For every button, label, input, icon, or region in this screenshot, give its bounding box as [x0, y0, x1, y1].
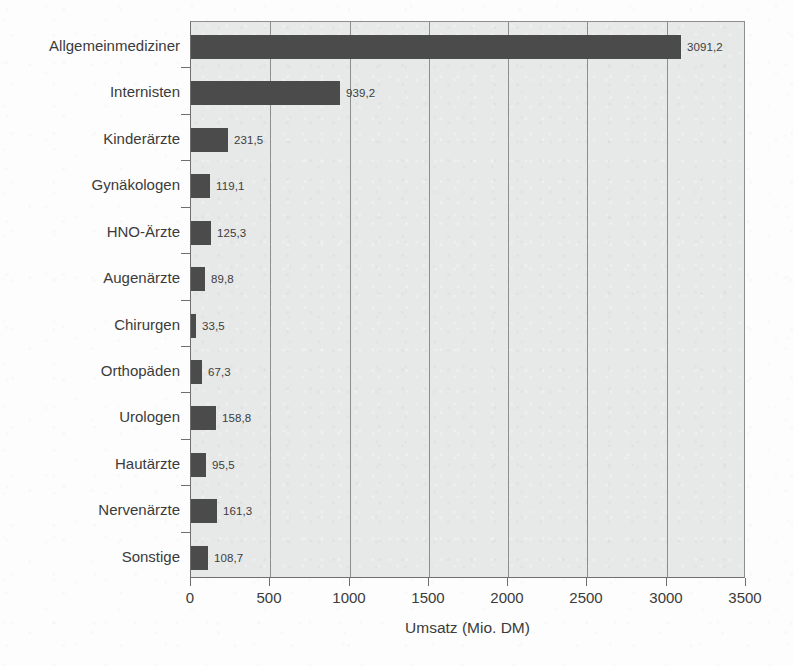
y-axis-tick	[181, 253, 190, 254]
bar-haut-rzte[interactable]	[191, 453, 206, 477]
y-axis-tick	[181, 485, 190, 486]
bar-row: 119,1	[191, 174, 746, 198]
bar-allgemeinmediziner[interactable]	[191, 35, 681, 59]
x-axis-tick-label-2000: 2000	[467, 588, 547, 608]
y-axis-tick	[181, 300, 190, 301]
x-axis-tick-label-500: 500	[229, 588, 309, 608]
bar-row: 231,5	[191, 128, 746, 152]
x-axis-tick-label-3500: 3500	[705, 588, 785, 608]
y-axis-tick	[181, 160, 190, 161]
category-label-kinder-rzte: Kinderärzte	[0, 129, 180, 149]
y-axis-tick	[181, 392, 190, 393]
category-label-orthop-den: Orthopäden	[0, 361, 180, 381]
y-axis-tick	[181, 439, 190, 440]
x-axis-tick-3500	[745, 578, 746, 586]
category-label-nerven-rzte: Nervenärzte	[0, 500, 180, 520]
y-axis-tick	[181, 207, 190, 208]
category-label-hno-rzte: HNO-Ärzte	[0, 222, 180, 242]
bar-value-label: 231,5	[234, 131, 263, 149]
bar-row: 95,5	[191, 453, 746, 477]
x-axis-title: Umsatz (Mio. DM)	[190, 617, 745, 639]
bar-row: 33,5	[191, 314, 746, 338]
category-label-internisten: Internisten	[0, 82, 180, 102]
bar-value-label: 95,5	[212, 456, 235, 474]
x-axis-tick-500	[269, 578, 270, 586]
gridline-2500	[587, 22, 588, 577]
x-axis-tick-1000	[349, 578, 350, 586]
bar-orthop-den[interactable]	[191, 360, 202, 384]
bar-kinder-rzte[interactable]	[191, 128, 228, 152]
y-axis-tick	[181, 532, 190, 533]
x-axis-tick-label-3000: 3000	[626, 588, 706, 608]
x-axis-tick-3000	[666, 578, 667, 586]
x-axis-tick-1500	[428, 578, 429, 586]
gridline-1500	[429, 22, 430, 577]
bar-row: 161,3	[191, 499, 746, 523]
bar-nerven-rzte[interactable]	[191, 499, 217, 523]
bar-chirurgen[interactable]	[191, 314, 196, 338]
y-axis-tick	[181, 346, 190, 347]
bar-row: 939,2	[191, 81, 746, 105]
bar-value-label: 67,3	[208, 363, 231, 381]
bar-hno-rzte[interactable]	[191, 221, 211, 245]
x-axis-tick-2000	[507, 578, 508, 586]
bar-row: 3091,2	[191, 35, 746, 59]
plot-texture-overlay	[191, 22, 744, 577]
x-axis-tick-label-1000: 1000	[309, 588, 389, 608]
bar-value-label: 3091,2	[687, 38, 723, 56]
category-label-chirurgen: Chirurgen	[0, 315, 180, 335]
bar-value-label: 125,3	[217, 224, 246, 242]
bar-row: 108,7	[191, 546, 746, 570]
x-axis-tick-label-2500: 2500	[546, 588, 626, 608]
category-label-gyn-kologen: Gynäkologen	[0, 175, 180, 195]
y-axis-tick	[181, 67, 190, 68]
bar-row: 67,3	[191, 360, 746, 384]
bar-value-label: 939,2	[346, 84, 375, 102]
bar-augen-rzte[interactable]	[191, 267, 205, 291]
gridline-3000	[667, 22, 668, 577]
x-axis-tick-label-1500: 1500	[388, 588, 468, 608]
x-axis-tick-label-0: 0	[150, 588, 230, 608]
gridline-500	[270, 22, 271, 577]
x-axis-tick-2500	[586, 578, 587, 586]
y-axis-tick	[181, 114, 190, 115]
plot-area: 3091,2939,2231,5119,1125,389,833,567,315…	[190, 21, 745, 578]
x-axis-tick-0	[190, 578, 191, 586]
category-label-haut-rzte: Hautärzte	[0, 454, 180, 474]
bar-value-label: 89,8	[211, 270, 234, 288]
category-label-sonstige: Sonstige	[0, 547, 180, 567]
gridline-1000	[350, 22, 351, 577]
bar-value-label: 33,5	[202, 317, 225, 335]
category-label-augen-rzte: Augenärzte	[0, 268, 180, 288]
bar-value-label: 119,1	[216, 177, 244, 195]
bar-internisten[interactable]	[191, 81, 340, 105]
bar-urologen[interactable]	[191, 406, 216, 430]
bar-chart-figure: 3091,2939,2231,5119,1125,389,833,567,315…	[0, 0, 794, 666]
bar-sonstige[interactable]	[191, 546, 208, 570]
bar-row: 158,8	[191, 406, 746, 430]
bar-row: 89,8	[191, 267, 746, 291]
gridline-2000	[508, 22, 509, 577]
category-label-allgemeinmediziner: Allgemeinmediziner	[0, 36, 180, 56]
bar-value-label: 158,8	[222, 409, 251, 427]
category-label-urologen: Urologen	[0, 407, 180, 427]
bar-value-label: 108,7	[214, 549, 243, 567]
bar-value-label: 161,3	[223, 502, 252, 520]
bar-row: 125,3	[191, 221, 746, 245]
bar-gyn-kologen[interactable]	[191, 174, 210, 198]
